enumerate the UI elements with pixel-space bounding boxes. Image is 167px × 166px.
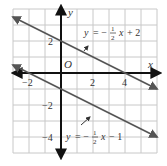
svg-text:− 1: − 1 bbox=[109, 131, 122, 142]
line-series-2 bbox=[13, 65, 157, 137]
svg-text:x: x bbox=[118, 27, 124, 38]
annotation-line-1: y = − 1 2 x + 2 bbox=[83, 25, 140, 51]
svg-text:= −: = − bbox=[93, 27, 107, 38]
x-axis-label: x bbox=[147, 58, 153, 70]
origin-label: O bbox=[64, 58, 72, 70]
svg-text:1: 1 bbox=[93, 129, 97, 137]
y-axis-label: y bbox=[67, 6, 73, 18]
y-tick-label: 2 bbox=[48, 36, 53, 47]
svg-text:y: y bbox=[65, 131, 71, 142]
x-tick-label: 2 bbox=[90, 77, 95, 88]
svg-text:= −: = − bbox=[75, 131, 89, 142]
y-tick-label: −4 bbox=[42, 132, 53, 143]
x-tick-label: −2 bbox=[22, 77, 33, 88]
svg-text:y: y bbox=[83, 27, 89, 38]
y-tick-label: −2 bbox=[42, 100, 53, 111]
svg-text:2: 2 bbox=[93, 138, 97, 146]
x-tick-label: 4 bbox=[122, 77, 127, 88]
coordinate-graph: y x O −2 2 4 2 −2 −4 y = − 1 2 x + 2 y =… bbox=[0, 0, 167, 166]
svg-text:+ 2: + 2 bbox=[127, 27, 140, 38]
svg-text:2: 2 bbox=[111, 34, 115, 42]
svg-text:1: 1 bbox=[111, 25, 115, 33]
svg-text:x: x bbox=[100, 131, 106, 142]
